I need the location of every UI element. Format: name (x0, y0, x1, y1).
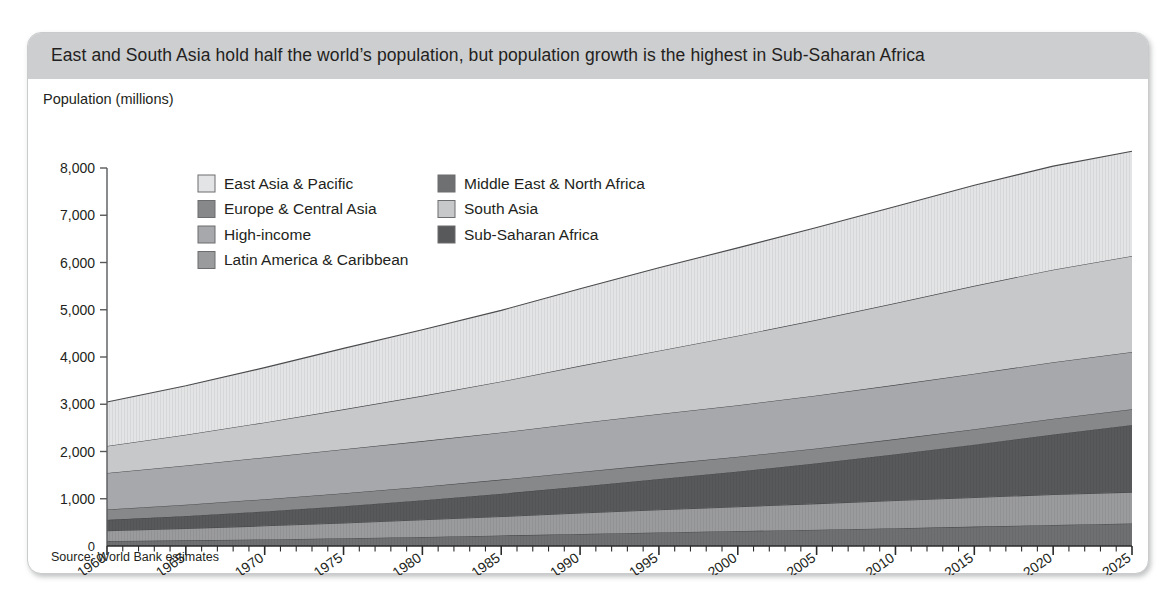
x-tick-label: 1990 (547, 549, 582, 575)
x-tick-label: 2025 (1099, 549, 1134, 575)
legend-item[interactable]: South Asia (438, 200, 538, 218)
chart-figure: East and South Asia hold half the world’… (0, 0, 1176, 605)
x-tick-label: 1985 (468, 549, 503, 575)
legend-label: Latin America & Caribbean (224, 251, 408, 268)
x-tick-label: 1975 (311, 549, 346, 575)
legend-item[interactable]: High-income (198, 226, 311, 244)
y-tick-label: 2,000 (60, 444, 95, 460)
y-tick-label: 5,000 (60, 302, 95, 318)
y-tick-label: 8,000 (60, 160, 95, 176)
legend-item[interactable]: Latin America & Caribbean (198, 251, 408, 269)
legend-label: South Asia (464, 200, 538, 217)
x-tick-label: 2015 (941, 549, 976, 575)
x-tick-label: 2010 (862, 549, 897, 575)
legend-label: Middle East & North Africa (464, 175, 645, 192)
source-note: Source: World Bank estimates (51, 550, 219, 564)
legend-item[interactable]: Europe & Central Asia (198, 200, 377, 218)
y-tick-label: 4,000 (60, 349, 95, 365)
chart-title-bar: East and South Asia hold half the world’… (28, 33, 1148, 79)
x-tick-label: 1995 (626, 549, 661, 575)
legend-label: Sub-Saharan Africa (464, 226, 599, 243)
legend-label: High-income (224, 226, 311, 243)
legend-label: Europe & Central Asia (224, 200, 377, 217)
y-tick-label: 3,000 (60, 396, 95, 412)
chart-legend: East Asia & PacificMiddle East & North A… (198, 175, 645, 269)
x-tick-label: 1980 (389, 549, 424, 575)
x-tick-label: 1970 (232, 549, 267, 575)
legend-item[interactable]: Sub-Saharan Africa (438, 226, 599, 244)
stacked-area-chart: 01,0002,0003,0004,0005,0006,0007,0008,00… (28, 79, 1150, 575)
x-tick-label: 2000 (705, 549, 740, 575)
y-tick-label: 1,000 (60, 491, 95, 507)
plot-area-wrapper: 01,0002,0003,0004,0005,0006,0007,0008,00… (28, 79, 1150, 575)
chart-card: East and South Asia hold half the world’… (27, 32, 1149, 574)
legend-item[interactable]: East Asia & Pacific (198, 175, 353, 193)
y-tick-label: 6,000 (60, 255, 95, 271)
legend-item[interactable]: Middle East & North Africa (438, 175, 645, 193)
x-tick-label: 2020 (1020, 549, 1055, 575)
chart-title: East and South Asia hold half the world’… (51, 45, 925, 66)
legend-label: East Asia & Pacific (224, 175, 353, 192)
x-tick-label: 2005 (784, 549, 819, 575)
y-tick-label: 7,000 (60, 207, 95, 223)
